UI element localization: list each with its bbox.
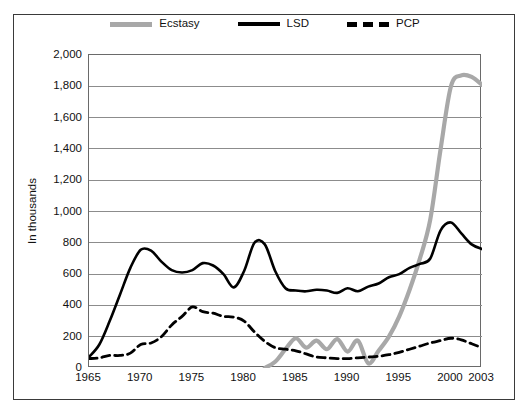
ecstasy-swatch-icon bbox=[110, 22, 152, 27]
legend-label-pcp: PCP bbox=[396, 18, 420, 30]
legend-item-lsd: LSD bbox=[238, 18, 309, 30]
pcp-swatch-icon bbox=[347, 22, 389, 27]
y-axis-tick-labels: 2,0001,8001,6001,4001,2001,0008006004002… bbox=[34, 54, 82, 367]
x-tick-label: 1975 bbox=[179, 371, 205, 383]
y-tick-label: 1,000 bbox=[53, 205, 82, 217]
x-tick-label: 2003 bbox=[468, 371, 494, 383]
x-tick-label: 2000 bbox=[437, 371, 463, 383]
legend-item-pcp: PCP bbox=[347, 18, 420, 30]
legend-item-ecstasy: Ecstasy bbox=[110, 18, 199, 30]
y-tick-label: 800 bbox=[63, 236, 82, 248]
y-tick-label: 2,000 bbox=[53, 48, 82, 60]
chart-canvas bbox=[89, 55, 482, 368]
x-axis-tick-labels: 196519701975198019851990199520002003 bbox=[88, 371, 481, 389]
legend-label-lsd: LSD bbox=[287, 18, 309, 30]
x-tick-label: 1980 bbox=[230, 371, 256, 383]
y-tick-label: 1,600 bbox=[53, 111, 82, 123]
x-tick-label: 1995 bbox=[385, 371, 411, 383]
y-tick-label: 200 bbox=[63, 330, 82, 342]
x-tick-label: 1990 bbox=[334, 371, 360, 383]
legend-label-ecstasy: Ecstasy bbox=[159, 18, 199, 30]
y-tick-label: 1,200 bbox=[53, 173, 82, 185]
y-tick-label: 400 bbox=[63, 298, 82, 310]
y-tick-label: 1,400 bbox=[53, 142, 82, 154]
chart-legend: Ecstasy LSD PCP bbox=[0, 14, 530, 34]
x-tick-label: 1985 bbox=[282, 371, 308, 383]
plot-area bbox=[88, 54, 481, 367]
y-tick-label: 600 bbox=[63, 267, 82, 279]
x-tick-label: 1970 bbox=[127, 371, 153, 383]
y-tick-label: 1,800 bbox=[53, 79, 82, 91]
x-tick-label: 1965 bbox=[75, 371, 101, 383]
lsd-swatch-icon bbox=[238, 22, 280, 26]
plot-area-wrapper bbox=[88, 54, 481, 367]
